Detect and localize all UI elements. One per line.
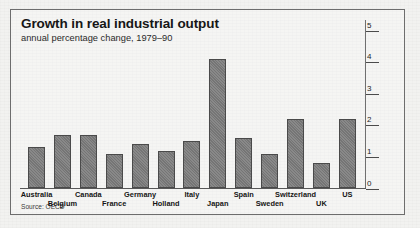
- category-label-germany: Germany: [124, 190, 156, 199]
- y-tick-label-2: 2: [367, 115, 383, 124]
- category-label-spain: Spain: [234, 190, 254, 199]
- bar-uk: [313, 163, 330, 188]
- bar-holland: [158, 151, 175, 189]
- bar-sweden: [261, 154, 278, 189]
- bar-spain: [235, 138, 252, 189]
- bar-australia: [28, 147, 45, 188]
- bar-france: [106, 154, 123, 189]
- y-tick-label-0: 0: [367, 179, 383, 188]
- y-tick-1: [366, 157, 379, 158]
- y-axis-line: [365, 20, 366, 189]
- bar-germany: [132, 144, 149, 188]
- chart-title: Growth in real industrial output: [21, 16, 219, 31]
- category-label-belgium: Belgium: [48, 199, 77, 208]
- bar-italy: [183, 141, 200, 188]
- bar-japan: [209, 59, 226, 189]
- category-label-us: US: [342, 190, 352, 199]
- category-label-australia: Australia: [21, 190, 53, 199]
- category-label-canada: Canada: [75, 190, 102, 199]
- bar-belgium: [54, 135, 71, 189]
- category-label-uk: UK: [316, 199, 327, 208]
- y-tick-2: [366, 125, 379, 126]
- category-label-italy: Italy: [184, 190, 199, 199]
- y-tick-3: [366, 94, 379, 95]
- y-tick-label-5: 5: [367, 21, 383, 30]
- category-label-holland: Holland: [152, 199, 179, 208]
- bar-us: [339, 119, 356, 189]
- chart-figure: Growth in real industrial output annual …: [0, 0, 420, 228]
- category-label-france: France: [102, 199, 126, 208]
- category-label-switzerland: Switzerland: [275, 190, 316, 199]
- chart-subtitle: annual percentage change, 1979–90: [21, 33, 172, 43]
- y-tick-label-1: 1: [367, 147, 383, 156]
- y-tick-5: [366, 31, 379, 32]
- y-tick-4: [366, 62, 379, 63]
- category-label-sweden: Sweden: [256, 199, 284, 208]
- y-tick-label-4: 4: [367, 52, 383, 61]
- y-tick-label-3: 3: [367, 84, 383, 93]
- bar-switzerland: [287, 119, 304, 189]
- category-label-japan: Japan: [207, 199, 228, 208]
- bar-canada: [80, 135, 97, 189]
- y-tick-0: [366, 189, 379, 190]
